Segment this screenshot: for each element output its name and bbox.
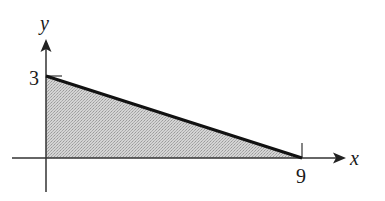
y-axis-label: y xyxy=(38,12,49,35)
y-intercept-label: 3 xyxy=(29,67,39,89)
x-axis-label: x xyxy=(349,147,359,169)
x-intercept-label: 9 xyxy=(296,165,306,187)
diagram: y x 3 9 xyxy=(0,0,385,201)
